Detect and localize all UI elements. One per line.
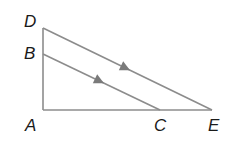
label-point-a: A: [25, 117, 36, 134]
parallel-arrows-group: [93, 61, 132, 87]
parallel-arrow-icon: [119, 61, 132, 74]
label-point-b: B: [24, 45, 35, 62]
label-point-e: E: [208, 117, 219, 134]
geometry-diagram: D B A C E: [0, 0, 237, 150]
label-point-d: D: [24, 13, 36, 30]
parallel-arrow-icon: [93, 74, 106, 87]
label-point-c: C: [154, 117, 166, 134]
